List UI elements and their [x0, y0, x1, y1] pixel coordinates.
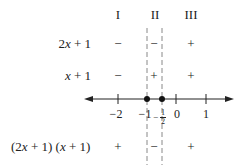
left-arrow-icon	[84, 96, 93, 102]
column-header-iii: III	[185, 7, 198, 23]
tick-label-neg-two: −2	[110, 107, 123, 122]
label-text: + 1	[71, 36, 91, 51]
column-header-i: I	[116, 7, 120, 23]
right-arrow-icon	[225, 96, 234, 102]
label-text: + 1)	[66, 139, 91, 154]
sign-row1-col3: +	[187, 36, 194, 52]
row-label-2x-plus-1: 2x + 1	[58, 36, 91, 52]
sign-row2-col2: +	[150, 68, 157, 84]
neg-sign: −	[153, 112, 158, 122]
label-text: + 1	[71, 68, 91, 83]
point-neg-half	[159, 96, 165, 102]
tick-label-one: 1	[203, 107, 209, 122]
tick-label-neg-half: −12	[153, 109, 166, 126]
tick-label-neg-one: −1	[139, 107, 152, 122]
sign-row2-col3: +	[187, 68, 194, 84]
label-text: + 1) (	[28, 139, 60, 154]
label-text: (2	[11, 139, 22, 154]
sign-row1-col2: −	[150, 36, 157, 52]
point-neg-one	[144, 96, 150, 102]
sign-row3-col3: +	[187, 139, 194, 155]
fraction: 12	[160, 109, 166, 126]
sign-row2-col1: −	[114, 68, 121, 84]
row-label-x-plus-1: x + 1	[65, 68, 91, 84]
row-label-product: (2x + 1) (x + 1)	[11, 139, 90, 155]
tick-label-zero: 0	[174, 107, 180, 122]
sign-row3-col2: −	[150, 139, 157, 155]
denominator: 2	[161, 118, 165, 126]
numerator: 1	[161, 109, 165, 117]
sign-row1-col1: −	[114, 36, 121, 52]
column-header-ii: II	[151, 7, 160, 23]
sign-row3-col1: +	[114, 139, 121, 155]
